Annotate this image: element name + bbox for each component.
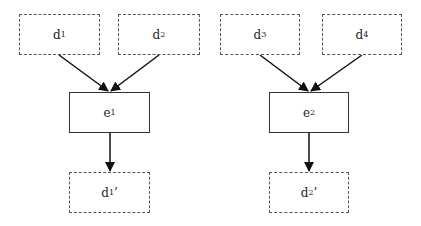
node-label: e [303,106,310,120]
node-d2: d2 [118,14,200,55]
edge-d2-e1 [111,55,159,91]
node-d4: d4 [322,14,402,55]
node-d3: d3 [220,14,300,55]
node-prime: ’ [313,186,317,200]
node-d1-prime: d1’ [69,172,150,213]
node-label: d [101,186,109,200]
node-subscript: 2 [160,30,165,39]
node-prime: ’ [114,186,118,200]
node-subscript: 3 [261,30,266,39]
node-label: d [53,28,61,42]
node-e1: e1 [69,92,150,133]
node-subscript: 1 [61,30,66,39]
node-label: d [254,28,262,42]
node-label: e [103,106,110,120]
edge-d3-e2 [260,55,308,91]
edge-d1-e1 [59,55,108,91]
node-d2-prime: d2’ [269,172,349,213]
node-subscript: 2 [310,108,315,117]
node-subscript: 4 [363,30,368,39]
node-label: d [356,28,364,42]
node-d1: d1 [19,14,100,55]
node-e2: e2 [269,92,349,133]
node-label: d [153,28,161,42]
node-subscript: 1 [111,108,116,117]
node-label: d [301,186,309,200]
edge-d4-e2 [311,55,362,91]
